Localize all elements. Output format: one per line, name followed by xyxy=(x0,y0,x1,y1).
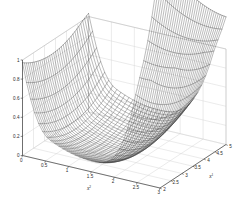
y-tick-mark xyxy=(160,188,162,189)
tick-label: 0.8 xyxy=(13,77,20,82)
y-tick-mark xyxy=(182,174,184,175)
tick-label: 0.6 xyxy=(13,96,20,101)
tick-label: 4.5 xyxy=(216,151,223,156)
axes-panes xyxy=(23,17,227,189)
x1-axis-label: x1 xyxy=(208,173,213,179)
y-tick-mark xyxy=(226,145,228,146)
tick-label: 3 xyxy=(185,173,188,178)
tick-label: 0.5 xyxy=(41,163,48,168)
tick-label: 5 xyxy=(229,144,232,149)
tick-label: 2 xyxy=(112,179,115,184)
tick-label: 2 xyxy=(163,187,166,192)
tick-label: 1 xyxy=(66,168,69,173)
tick-label: 1.5 xyxy=(87,174,94,179)
tick-label: 0.4 xyxy=(13,115,20,120)
surface-plot-svg: 00.20.40.60.8100.511.522.5322.533.544.55… xyxy=(0,0,252,217)
tick-label: 3 xyxy=(158,190,161,195)
figure-canvas: 00.20.40.60.8100.511.522.5322.533.544.55… xyxy=(0,0,252,217)
x2-axis-label: x2 xyxy=(86,185,91,191)
tick-label: 1 xyxy=(17,58,20,63)
tick-label: 2.5 xyxy=(133,185,140,190)
tick-label: 3.5 xyxy=(194,165,201,170)
tick-label: 4 xyxy=(207,158,210,163)
tick-label: 2.5 xyxy=(172,180,179,185)
y-tick-mark xyxy=(204,159,206,160)
surface-mesh xyxy=(23,0,227,163)
tick-label: 0 xyxy=(20,158,23,163)
tick-label: 0.2 xyxy=(13,134,20,139)
